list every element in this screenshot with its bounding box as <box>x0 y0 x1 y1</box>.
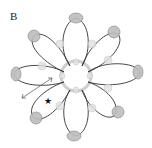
flower-loop-diagram: ★ <box>0 0 152 148</box>
star-marker-icon: ★ <box>44 96 52 106</box>
central-ring <box>61 61 91 91</box>
outer-beads <box>11 13 143 141</box>
double-arrow-icon <box>22 78 52 98</box>
